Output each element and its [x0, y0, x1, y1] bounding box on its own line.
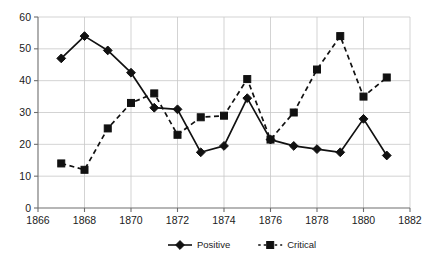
data-point-marker [244, 76, 251, 83]
y-tick-label: 60 [19, 11, 31, 23]
x-tick-label: 1880 [352, 214, 376, 226]
x-tick-label: 1876 [259, 214, 283, 226]
data-point-marker [290, 109, 297, 116]
x-tick-label: 1872 [166, 214, 190, 226]
data-point-marker [337, 33, 344, 40]
legend-label: Critical [287, 239, 316, 250]
data-point-marker [220, 142, 229, 151]
data-point-marker [314, 66, 321, 73]
data-point-marker [150, 103, 159, 112]
y-tick-label: 50 [19, 42, 31, 54]
data-point-marker [197, 114, 204, 121]
y-tick-label: 40 [19, 74, 31, 86]
data-point-marker [267, 136, 274, 143]
data-point-marker [58, 160, 65, 167]
x-tick-label: 1866 [26, 214, 50, 226]
y-tick-label: 20 [19, 138, 31, 150]
data-point-marker [360, 93, 367, 100]
legend-marker [176, 241, 185, 250]
x-tick-label: 1882 [398, 214, 422, 226]
line-chart: 0102030405060186618681870187218741876187… [0, 0, 436, 270]
data-point-marker [151, 90, 158, 97]
x-tick-label: 1878 [305, 214, 329, 226]
y-tick-label: 10 [19, 170, 31, 182]
y-tick-label: 0 [25, 202, 31, 214]
data-point-marker [174, 131, 181, 138]
y-tick-label: 30 [19, 106, 31, 118]
x-axis-ticks: 186618681870187218741876187818801882 [26, 208, 422, 226]
x-tick-label: 1868 [73, 214, 97, 226]
data-point-marker [383, 74, 390, 81]
data-point-marker [289, 142, 298, 151]
data-point-marker [382, 151, 391, 160]
x-tick-label: 1874 [212, 214, 236, 226]
legend: PositiveCritical [168, 239, 316, 250]
legend-label: Positive [197, 239, 230, 250]
chart-canvas: 0102030405060186618681870187218741876187… [0, 0, 436, 270]
data-point-marker [196, 148, 205, 157]
data-point-marker [221, 112, 228, 119]
data-point-marker [243, 94, 252, 103]
data-point-marker [313, 145, 322, 154]
y-axis-ticks: 0102030405060 [19, 11, 38, 214]
data-point-marker [81, 166, 88, 173]
x-tick-label: 1870 [119, 214, 143, 226]
data-point-marker [128, 99, 135, 106]
legend-marker [267, 242, 274, 249]
data-point-marker [104, 125, 111, 132]
